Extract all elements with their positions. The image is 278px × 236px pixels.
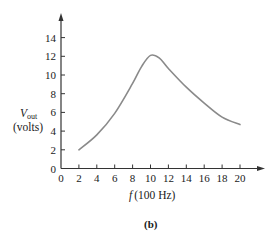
- y-tick-label: 10: [45, 69, 57, 81]
- x-axis-arrow-icon: [257, 166, 265, 171]
- y-axis-arrow-icon: [59, 13, 64, 21]
- x-tick-label: 12: [163, 172, 174, 184]
- x-ticks: 02468101214161820: [58, 165, 246, 184]
- x-tick-label: 18: [217, 172, 229, 184]
- x-tick-label: 16: [199, 172, 211, 184]
- x-tick-label: 0: [58, 172, 64, 184]
- vout-curve: [79, 55, 240, 150]
- y-axis-title-subscript: out: [27, 112, 38, 121]
- y-ticks: 02468101214: [45, 32, 65, 175]
- x-tick-label: 20: [235, 172, 247, 184]
- figure-caption: (b): [144, 218, 158, 231]
- x-axis-title: f(100 Hz): [129, 189, 176, 202]
- frequency-response-chart: 02468101214161820 02468101214 Vout (volt…: [0, 0, 278, 236]
- y-axis-title-unit: (volts): [13, 121, 43, 134]
- x-tick-label: 14: [181, 172, 193, 184]
- x-tick-label: 2: [76, 172, 82, 184]
- x-tick-label: 10: [145, 172, 157, 184]
- x-tick-label: 8: [130, 172, 136, 184]
- x-tick-label: 6: [112, 172, 118, 184]
- y-tick-label: 14: [45, 32, 57, 44]
- x-tick-label: 4: [94, 172, 100, 184]
- y-tick-label: 6: [51, 106, 57, 118]
- y-tick-label: 8: [51, 88, 57, 100]
- y-tick-label: 0: [51, 163, 57, 175]
- axes: [59, 13, 266, 171]
- y-tick-label: 2: [51, 144, 57, 156]
- y-axis-title-symbol: Vout: [20, 107, 38, 121]
- y-tick-label: 4: [51, 125, 57, 137]
- y-tick-label: 12: [45, 50, 56, 62]
